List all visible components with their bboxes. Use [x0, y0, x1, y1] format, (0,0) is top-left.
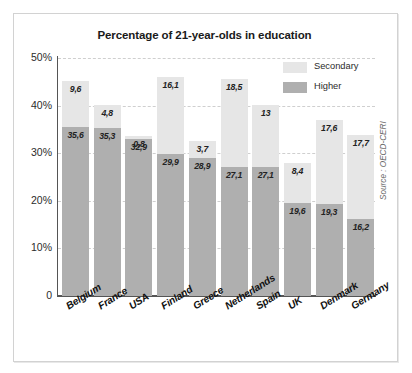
legend-swatch-icon — [283, 62, 307, 73]
category-label-uk: UK — [286, 294, 304, 311]
category-label-greece: Greece — [191, 284, 225, 311]
legend-label: Secondary — [314, 61, 358, 71]
category-label-belgium: Belgium — [64, 281, 103, 311]
source-note: Source : OECD-CERI — [379, 121, 388, 200]
legend-label: Higher — [314, 81, 341, 91]
x-axis-category-labels: BelgiumFranceUSAFinlandGreeceNetherlands… — [0, 0, 412, 373]
legend-item-higher[interactable]: Higher — [283, 80, 387, 95]
category-label-usa: USA — [127, 291, 151, 311]
chart-screenshot: Percentage of 21-year-olds in education … — [0, 0, 412, 373]
category-label-finland: Finland — [159, 284, 194, 312]
legend-item-secondary[interactable]: Secondary — [283, 60, 387, 75]
chart-legend: SecondaryHigher — [283, 60, 387, 100]
legend-swatch-icon — [283, 82, 307, 93]
